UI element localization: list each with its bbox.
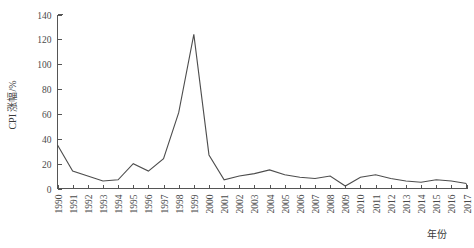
y-axis-spine [58, 15, 63, 189]
x-tick-label: 2008 [326, 194, 336, 213]
x-tick-label: 2002 [235, 194, 245, 213]
x-tick-label: 2017 [463, 194, 473, 213]
x-tick-label: 1993 [99, 194, 109, 213]
x-tick-label: 1992 [84, 194, 94, 213]
chart-figure: CPI 涨幅/% 年份 020406080100120140 199019911… [0, 0, 474, 248]
x-axis-title: 年份 [427, 228, 447, 240]
x-tick-label: 1990 [54, 194, 64, 213]
y-tick-label: 20 [42, 160, 52, 170]
x-tick-labels: 1990199119921993199419951996199719981999… [54, 194, 473, 213]
x-tick-label: 1999 [190, 194, 200, 213]
y-tick-labels: 020406080100120140 [37, 11, 52, 195]
x-tick-label: 2010 [356, 194, 366, 213]
y-tick-label: 120 [37, 35, 52, 45]
x-tick-label: 1991 [69, 194, 79, 213]
y-tick-label: 40 [42, 135, 52, 145]
x-tick-label: 1994 [114, 194, 124, 213]
x-tick-label: 2004 [266, 194, 276, 213]
x-tick-marks [59, 185, 468, 189]
y-tick-label: 80 [42, 85, 52, 95]
y-tick-label: 60 [42, 110, 52, 120]
y-tick-marks [58, 16, 62, 190]
x-tick-label: 2013 [402, 194, 412, 213]
x-tick-label: 1996 [144, 194, 154, 213]
x-tick-label: 1998 [175, 194, 185, 213]
x-tick-label: 2000 [205, 194, 215, 213]
y-axis-title: CPI 涨幅/% [6, 80, 18, 129]
data-series-line [58, 34, 467, 186]
y-tick-label: 0 [47, 185, 52, 195]
x-tick-label: 1995 [129, 194, 139, 213]
x-tick-label: 2007 [311, 194, 321, 213]
x-tick-label: 2006 [296, 194, 306, 213]
x-tick-label: 2016 [447, 194, 457, 213]
x-tick-label: 2011 [372, 194, 382, 213]
x-tick-label: 1997 [160, 194, 170, 213]
x-tick-label: 2015 [432, 194, 442, 213]
x-tick-label: 2003 [250, 194, 260, 213]
y-tick-label: 100 [37, 60, 52, 70]
x-tick-label: 2001 [220, 194, 230, 213]
x-tick-label: 2005 [281, 194, 291, 213]
line-chart: CPI 涨幅/% 年份 020406080100120140 199019911… [0, 0, 474, 248]
x-tick-label: 2009 [341, 194, 351, 213]
x-tick-label: 2014 [417, 194, 427, 213]
x-tick-label: 2012 [387, 194, 397, 213]
y-tick-label: 140 [37, 11, 52, 21]
